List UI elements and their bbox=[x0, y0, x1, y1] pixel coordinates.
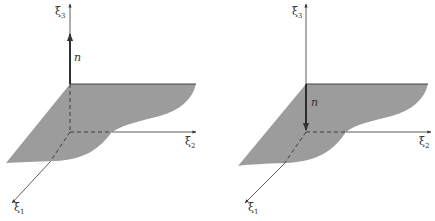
right-x2-label: ξ2 bbox=[419, 135, 430, 150]
left-surface bbox=[6, 84, 196, 163]
left-normal-label: n bbox=[74, 51, 81, 64]
right-x3-label: ξ3 bbox=[292, 5, 303, 20]
left-x1-label: ξ1 bbox=[14, 201, 25, 216]
left-x2-label: ξ2 bbox=[185, 135, 196, 150]
right-normal-label: n bbox=[311, 96, 318, 109]
left-figure: n ξ3 ξ2 ξ1 bbox=[6, 4, 196, 216]
left-x1-axis bbox=[12, 162, 50, 203]
right-x1-label: ξ1 bbox=[248, 201, 259, 216]
right-x1-axis bbox=[245, 164, 284, 203]
right-surface bbox=[238, 84, 428, 166]
figure-canvas: n ξ3 ξ2 ξ1 n ξ3 ξ2 ξ1 bbox=[0, 0, 435, 221]
left-x3-label: ξ3 bbox=[55, 5, 66, 20]
right-figure: n ξ3 ξ2 ξ1 bbox=[238, 4, 431, 216]
